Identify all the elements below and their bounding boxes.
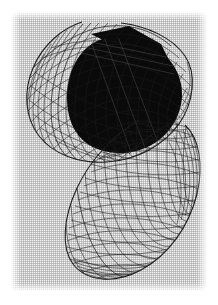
wireframe-surface <box>11 12 207 291</box>
plot-area <box>11 12 207 291</box>
figure-root: Wireframe surface plot Scanned black-and… <box>0 0 218 305</box>
upper-lobe-group <box>27 22 197 164</box>
